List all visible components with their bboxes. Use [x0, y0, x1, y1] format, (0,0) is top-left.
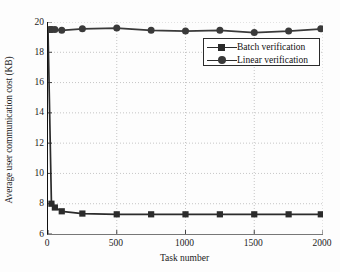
x-tick-label-500: 500 — [96, 238, 136, 248]
x-tick-label-0: 0 — [27, 238, 67, 248]
legend-item-batch-verification: Batch verification — [207, 41, 319, 53]
x-tick-label-1000: 1000 — [165, 238, 205, 248]
y-tick-label-16: 16 — [22, 77, 44, 87]
square-marker-icon — [207, 42, 237, 53]
legend-label-batch-verification: Batch verification — [237, 42, 305, 53]
y-tick-label-8: 8 — [22, 198, 44, 208]
x-tick-label-1500: 1500 — [233, 238, 273, 248]
legend-item-linear-verification: Linear verification — [207, 54, 319, 66]
x-tick-label-2000: 2000 — [302, 238, 340, 248]
y-tick-label-10: 10 — [22, 168, 44, 178]
y-tick-label-18: 18 — [22, 47, 44, 57]
y-tick-label-20: 20 — [22, 17, 44, 27]
legend: Batch verification Linear verification — [203, 38, 320, 66]
y-tick-label-12: 12 — [22, 138, 44, 148]
circle-marker-icon — [207, 55, 237, 66]
legend-label-linear-verification: Linear verification — [237, 55, 308, 66]
chart-figure: Average user communication cost (KB) 20 … — [0, 0, 340, 272]
y-axis-title: Average user communication cost (KB) — [2, 10, 16, 250]
x-axis-title: Task number — [47, 253, 322, 263]
y-tick-label-14: 14 — [22, 107, 44, 117]
